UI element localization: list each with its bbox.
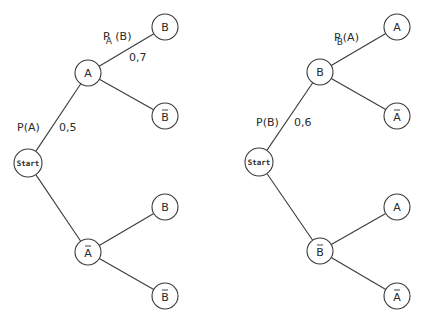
edge-tree-a-Abar-to-Abar-Bbar bbox=[99, 258, 153, 289]
node-label: B bbox=[316, 66, 324, 79]
edge-tree-a-A-to-A-Bbar bbox=[99, 79, 153, 109]
node-tree-b-Bbar-Abar: A bbox=[384, 283, 410, 309]
edge-label-p-b-value: 0,6 bbox=[294, 116, 312, 129]
edge-tree-a-start-to-Abar bbox=[36, 175, 81, 242]
node-label: A bbox=[393, 21, 401, 34]
node-label: A bbox=[84, 67, 92, 80]
node-label: B bbox=[161, 21, 169, 34]
edge-tree-b-Bbar-to-Bbar-Abar bbox=[331, 258, 386, 290]
node-label: B bbox=[161, 201, 169, 214]
node-tree-a-Abar: A bbox=[75, 239, 101, 265]
node-label: B bbox=[161, 291, 169, 304]
node-label: A bbox=[393, 291, 401, 304]
node-label: Start bbox=[248, 158, 271, 167]
node-tree-a-A-B: B bbox=[152, 14, 178, 40]
node-tree-b-B: B bbox=[307, 59, 333, 85]
node-tree-b-B-A: A bbox=[384, 14, 410, 40]
edge-label-pa-b: PA (B) bbox=[103, 30, 131, 46]
node-tree-b-B-Abar: A bbox=[384, 103, 410, 129]
edge-tree-b-B-to-B-Abar bbox=[331, 78, 385, 109]
node-label: A bbox=[393, 201, 401, 214]
node-tree-b-Bbar-A: A bbox=[384, 194, 410, 220]
edge-tree-b-start-to-Bbar bbox=[267, 174, 313, 241]
node-tree-a-A: A bbox=[75, 60, 101, 86]
edge-label-pa-b-value: 0,7 bbox=[129, 51, 147, 64]
node-tree-a-Abar-B: B bbox=[152, 194, 178, 220]
node-label: B bbox=[316, 246, 324, 259]
edge-tree-b-Bbar-to-Bbar-A bbox=[331, 213, 385, 244]
node-tree-a-Abar-Bbar: B bbox=[152, 283, 178, 309]
edge-tree-a-start-to-A bbox=[36, 84, 81, 152]
nodes-layer: StartABBABBStartBAABAA bbox=[14, 14, 410, 309]
probability-tree-diagram: StartABBABBStartBAABAA P(A)0,5PA (B)0,7P… bbox=[0, 0, 429, 331]
node-label: A bbox=[84, 247, 92, 260]
node-tree-b-start: Start bbox=[245, 148, 273, 176]
edge-label-p-a-value: 0,5 bbox=[59, 121, 77, 134]
edge-label-p-a: P(A) bbox=[17, 121, 40, 134]
node-tree-a-start: Start bbox=[14, 149, 42, 177]
node-label: A bbox=[393, 111, 401, 124]
labels-layer: P(A)0,5PA (B)0,7P(B)0,6PB(A) bbox=[17, 30, 359, 134]
node-label: B bbox=[161, 111, 169, 124]
node-tree-a-A-Bbar: B bbox=[152, 103, 178, 129]
node-tree-b-Bbar: B bbox=[307, 238, 333, 264]
edge-label-pb-a: PB(A) bbox=[334, 31, 359, 47]
edge-tree-a-Abar-to-Abar-B bbox=[99, 214, 154, 246]
edge-label-p-b: P(B) bbox=[256, 116, 279, 129]
node-label: Start bbox=[17, 159, 40, 168]
